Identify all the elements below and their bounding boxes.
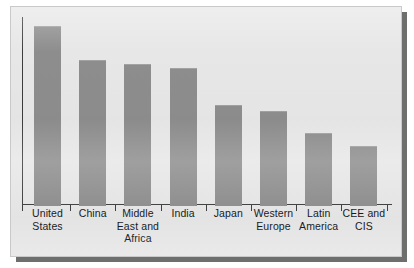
figure-container: UnitedStatesChinaMiddleEast andAfricaInd… <box>0 0 414 268</box>
x-axis-line <box>22 204 392 205</box>
x-axis-label-line: CIS <box>336 220 392 233</box>
x-axis-category-labels: UnitedStatesChinaMiddleEast andAfricaInd… <box>22 207 394 255</box>
x-axis-label: CEE andCIS <box>336 207 392 232</box>
y-axis-line <box>22 17 23 205</box>
x-axis-label-line: East and <box>110 220 166 233</box>
bar <box>170 68 197 206</box>
x-axis-label-line: States <box>20 220 76 233</box>
bar <box>34 26 61 206</box>
bar <box>350 146 377 206</box>
bar <box>79 60 106 206</box>
bar <box>260 111 287 206</box>
chart-panel: UnitedStatesChinaMiddleEast andAfricaInd… <box>10 6 402 257</box>
bar <box>305 133 332 206</box>
plot-area <box>22 17 392 207</box>
x-axis-label-line: CEE and <box>336 207 392 220</box>
x-axis-label-line: Africa <box>110 232 166 245</box>
bar <box>124 64 151 206</box>
bar <box>215 105 242 206</box>
